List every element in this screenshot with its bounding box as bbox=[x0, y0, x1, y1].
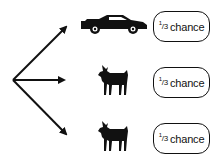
fraction: 1/3 bbox=[159, 76, 168, 87]
probability-box-car: 1/3 chance bbox=[153, 11, 210, 42]
probability-box-goat-2: 1/3 chance bbox=[153, 123, 210, 154]
goat-icon bbox=[96, 119, 132, 153]
car-icon bbox=[79, 13, 149, 35]
fraction: 1/3 bbox=[159, 20, 168, 31]
goat-icon bbox=[96, 63, 132, 97]
arrow-to-goat-2 bbox=[13, 80, 66, 134]
chance-label: chance bbox=[170, 133, 204, 145]
fraction: 1/3 bbox=[159, 132, 168, 143]
probability-box-goat-1: 1/3 chance bbox=[153, 67, 210, 98]
arrow-to-car bbox=[13, 27, 66, 80]
chance-label: chance bbox=[170, 77, 204, 89]
chance-label: chance bbox=[170, 21, 204, 33]
